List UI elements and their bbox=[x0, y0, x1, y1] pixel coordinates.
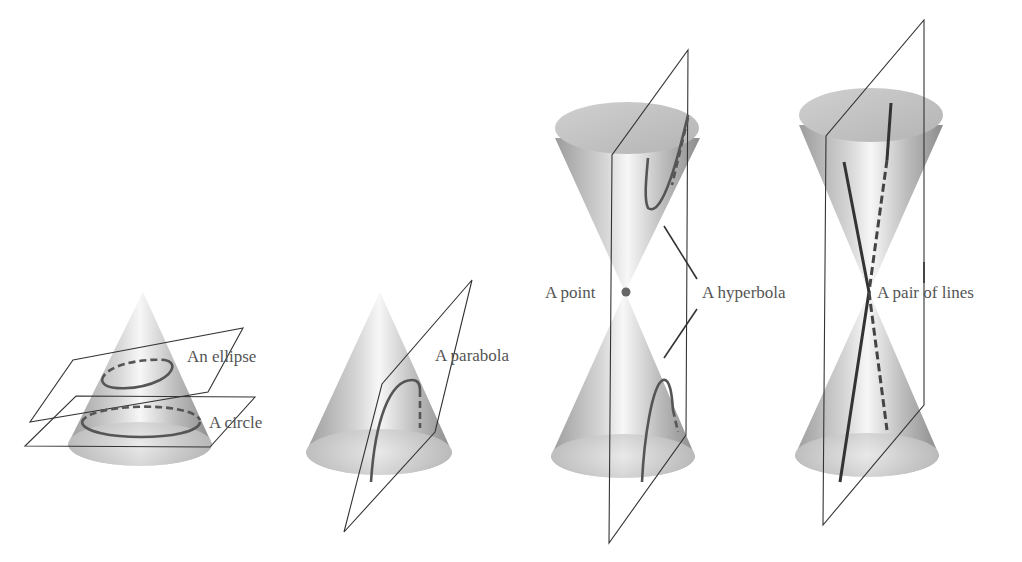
cone bbox=[306, 292, 452, 475]
cone bbox=[68, 292, 212, 466]
panel-hyperbola-point: A point A hyperbola bbox=[545, 50, 786, 543]
conic-sections-diagram: An ellipse A circle A parabola bbox=[0, 0, 1022, 562]
panel-ellipse-circle: An ellipse A circle bbox=[25, 292, 262, 466]
label-ellipse: An ellipse bbox=[187, 347, 256, 366]
panel-parabola: A parabola bbox=[306, 280, 510, 532]
label-parabola: A parabola bbox=[435, 346, 510, 365]
label-circle: A circle bbox=[209, 413, 262, 432]
vertex-point bbox=[622, 288, 631, 297]
label-pair-of-lines: A pair of lines bbox=[877, 283, 974, 302]
label-point: A point bbox=[545, 283, 596, 302]
label-hyperbola: A hyperbola bbox=[702, 283, 786, 302]
panel-pair-of-lines: A pair of lines bbox=[795, 20, 974, 525]
